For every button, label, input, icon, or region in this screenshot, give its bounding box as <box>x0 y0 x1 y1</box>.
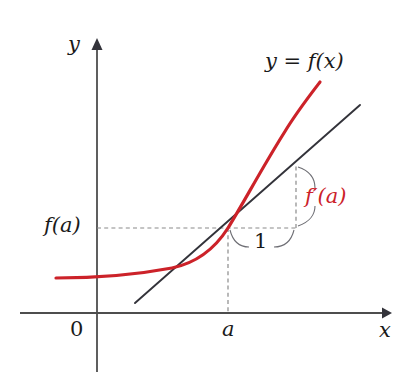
y-axis-arrowhead <box>92 38 103 50</box>
function-curve <box>56 82 320 278</box>
curve-equation-label: y = f(x) <box>265 51 344 72</box>
rise-brace-bottom-arc <box>298 206 315 226</box>
x-axis-arrowhead <box>382 308 392 319</box>
x-axis-label: x <box>379 320 391 341</box>
x-tick-label-a: a <box>222 319 235 340</box>
run-label-one: 1 <box>254 231 267 252</box>
origin-label: 0 <box>70 319 83 340</box>
y-axis-label: y <box>68 34 80 55</box>
figure-canvas <box>0 0 411 372</box>
run-brace-left-arc <box>230 230 249 247</box>
y-tick-label-f-of-a: f(a) <box>44 215 81 236</box>
rise-label-f-prime-a: f′(a) <box>305 186 346 207</box>
derivative-tangent-figure: y x 0 a f(a) y = f(x) 1 f′(a) <box>0 0 411 372</box>
run-brace-right-arc <box>274 230 294 247</box>
